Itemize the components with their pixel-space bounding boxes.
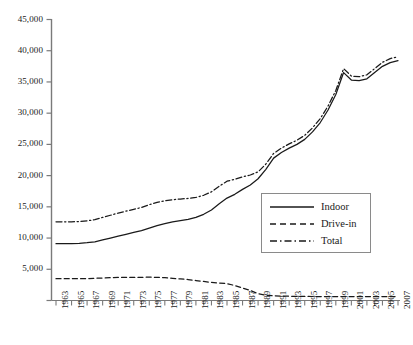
x-tick-label: 1999 <box>340 290 350 308</box>
data-series <box>56 57 398 297</box>
legend-item-total: Total <box>269 233 342 249</box>
x-tick-label: 1965 <box>76 290 86 308</box>
y-tick-label: 10,000 <box>0 232 43 242</box>
x-tick-label: 1987 <box>247 290 257 308</box>
x-tick-label: 1969 <box>107 290 117 308</box>
x-tick-label: 1973 <box>138 290 148 308</box>
y-tick-label: 15,000 <box>0 201 43 211</box>
y-tick-label: 40,000 <box>0 45 43 55</box>
legend-label-drive-in: Drive-in <box>321 219 357 230</box>
x-tick-label: 1995 <box>309 290 319 308</box>
y-tick-label: 45,000 <box>0 14 43 24</box>
x-tick-label: 2007 <box>402 290 412 308</box>
legend-item-drive-in: Drive-in <box>269 216 357 232</box>
y-tick-label: 5,000 <box>0 263 43 273</box>
x-tick-label: 1991 <box>278 290 288 308</box>
x-tick-label: 1963 <box>60 290 70 308</box>
y-tick-label: 20,000 <box>0 170 43 180</box>
x-tick-label: 2001 <box>355 290 365 308</box>
x-tick-label: 1967 <box>91 290 101 308</box>
legend-line-solid <box>269 202 315 212</box>
x-tick-label: 1997 <box>324 290 334 308</box>
y-tick-label: 35,000 <box>0 76 43 86</box>
legend-line-dashdot <box>269 236 315 246</box>
legend: Indoor Drive-in Total <box>261 193 371 253</box>
x-tick-label: 1983 <box>215 290 225 308</box>
axes <box>52 19 401 301</box>
legend-line-dashed <box>269 219 315 229</box>
y-tick-label: 30,000 <box>0 107 43 117</box>
legend-label-total: Total <box>321 236 342 247</box>
x-tick-label: 1977 <box>169 290 179 308</box>
legend-item-indoor: Indoor <box>269 199 349 215</box>
y-axis-ticks <box>47 20 52 301</box>
x-tick-label: 1989 <box>262 290 272 308</box>
x-tick-label: 2005 <box>386 290 396 308</box>
x-tick-label: 1993 <box>293 290 303 308</box>
x-tick-label: 1979 <box>184 290 194 308</box>
x-tick-label: 1975 <box>153 290 163 308</box>
legend-label-indoor: Indoor <box>321 202 349 213</box>
x-tick-label: 1971 <box>122 290 132 308</box>
line-chart: 5,00010,00015,00020,00025,00030,00035,00… <box>0 0 413 345</box>
y-tick-label: 25,000 <box>0 138 43 148</box>
x-tick-label: 1985 <box>231 290 241 308</box>
x-tick-label: 1981 <box>200 290 210 308</box>
x-tick-label: 2003 <box>371 290 381 308</box>
